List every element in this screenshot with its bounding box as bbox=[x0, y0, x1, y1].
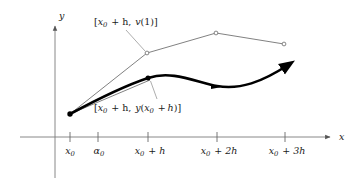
y-axis-label: y bbox=[59, 11, 64, 21]
tick-label-alpha0-sub: 0 bbox=[100, 150, 104, 158]
euler-point-callout: [x0 + h, v(1)] bbox=[94, 17, 158, 29]
tick-label-alpha0: α0 bbox=[94, 146, 105, 158]
euler-callout-plus: + h, bbox=[111, 16, 131, 27]
tick-label-x0-sub: 0 bbox=[71, 150, 75, 158]
x-axis-label: x bbox=[339, 132, 344, 142]
euler-method-figure: x y x0 α0 x0 + h x0 + 2h x0 + 3h [x0 + h… bbox=[0, 0, 353, 184]
exact-point-marker bbox=[146, 76, 151, 81]
tick-label-x0h: x0 + h bbox=[135, 146, 166, 158]
tick-label-x02h: x0 + 2h bbox=[201, 146, 238, 158]
euler-vertex-markers bbox=[145, 31, 286, 55]
initial-point-marker bbox=[67, 111, 72, 116]
euler-vertex-1 bbox=[145, 51, 149, 55]
exact-callout-close: ] bbox=[177, 102, 181, 113]
euler-callout-arg: (1) bbox=[141, 16, 154, 27]
tick-label-x03h: x0 + 3h bbox=[269, 146, 306, 158]
tick-label-x03h-tail: + 3h bbox=[282, 145, 305, 156]
tick-label-x0h-tail: + h bbox=[148, 145, 165, 156]
euler-callout-close: ] bbox=[154, 16, 158, 27]
euler-callout-leader bbox=[126, 30, 145, 51]
exact-point-callout: [x0 + h, y(x0 + h)] bbox=[94, 103, 181, 115]
exact-callout-plus: + h, bbox=[111, 102, 131, 113]
tick-label-x0: x0 bbox=[65, 146, 75, 158]
exact-callout-arg: (x0 + h) bbox=[141, 102, 178, 113]
exact-callout-leader bbox=[151, 81, 158, 99]
euler-vertex-2 bbox=[214, 31, 218, 35]
tick-label-x02h-tail: + 2h bbox=[214, 145, 237, 156]
euler-vertex-3 bbox=[282, 42, 286, 46]
